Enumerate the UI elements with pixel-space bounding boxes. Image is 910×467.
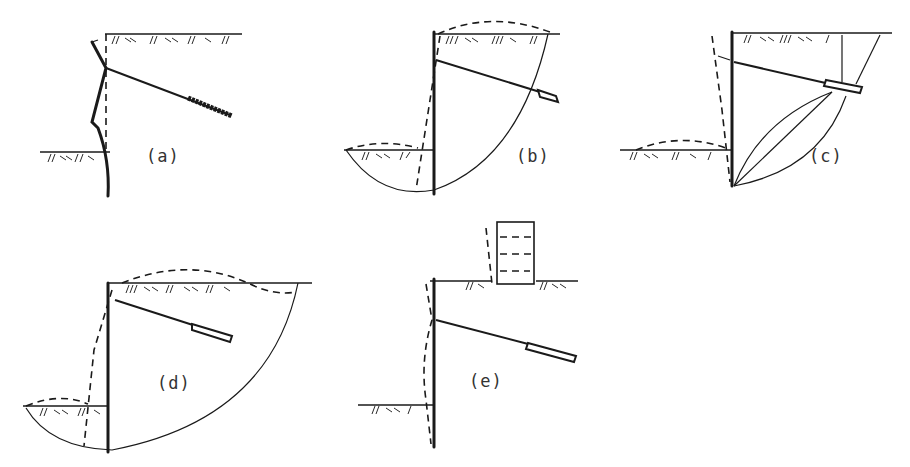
anchor-grout-body <box>192 324 232 342</box>
ground-heave-excavation <box>346 143 418 150</box>
soil-hatch-excavation <box>40 408 100 416</box>
adjacent-building <box>497 222 534 284</box>
anchor-tendon <box>734 62 830 84</box>
ground-heave-top <box>438 21 550 34</box>
panel-label-c: (c) <box>809 146 843 166</box>
figure-canvas: (a) (b) (c) (d) (e) <box>0 0 910 467</box>
anchor-grout-body <box>526 343 576 362</box>
anchor-tendon <box>436 320 532 345</box>
panel-label-e: (e) <box>469 371 503 391</box>
panel-e <box>358 222 578 447</box>
panel-label-d: (d) <box>157 373 191 393</box>
soil-hatch-excavation <box>630 152 711 160</box>
soil-hatch-excavation <box>48 154 94 162</box>
soil-hatch-top <box>744 35 829 43</box>
slip-surface <box>26 283 298 450</box>
anchor-tendon <box>436 60 540 92</box>
panel-d <box>23 270 312 452</box>
deformed-wall-outline <box>712 36 730 182</box>
ground-heave-excavation <box>26 398 88 406</box>
soil-hatch-top <box>112 36 229 44</box>
failure-wedge-lower <box>734 96 846 186</box>
soil-hatch-top <box>446 36 537 44</box>
anchor-grout-body <box>538 90 558 102</box>
deformed-wall-outline <box>424 284 432 444</box>
active-wedge-line <box>856 35 880 84</box>
failure-wedge-middle <box>734 92 832 186</box>
panel-c <box>620 32 892 186</box>
anchor-tendon <box>115 300 196 326</box>
soil-hatch-top <box>126 285 230 293</box>
ground-heave-excavation <box>636 140 726 150</box>
soil-hatch-excavation <box>362 152 410 160</box>
panel-b <box>344 21 560 194</box>
panel-a <box>40 34 242 196</box>
wall-kickback-mark <box>718 56 730 60</box>
slip-surface <box>346 34 548 192</box>
diagram-svg <box>0 0 910 467</box>
panel-label-b: (b) <box>516 146 550 166</box>
anchor-grout-body <box>824 80 862 93</box>
panel-label-a: (a) <box>146 146 180 166</box>
soil-hatch-excavation <box>372 406 411 414</box>
building-tilt-outline <box>486 228 492 284</box>
